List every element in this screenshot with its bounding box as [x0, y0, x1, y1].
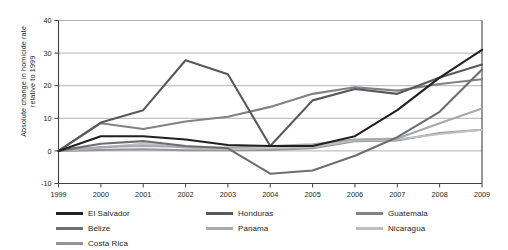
series-line-nicaragua — [59, 130, 483, 151]
legend-swatch-icon — [56, 242, 83, 245]
y-tick-label: -10 — [41, 179, 52, 188]
legend-item-guatemala[interactable]: Guatemala — [356, 209, 496, 218]
x-tick-label: 2007 — [389, 190, 405, 199]
x-tick-label: 1999 — [50, 190, 66, 199]
y-tick-label: 20 — [43, 81, 51, 90]
data-series-group — [59, 50, 483, 174]
legend-label: Nicaragua — [388, 224, 425, 233]
legend-label: Belize — [88, 224, 110, 233]
legend-item-belize[interactable]: Belize — [56, 224, 206, 233]
legend-swatch-icon — [56, 227, 83, 230]
legend-label: Honduras — [238, 209, 273, 218]
x-tick-label: 2008 — [432, 190, 448, 199]
x-tick-label: 2000 — [93, 190, 109, 199]
legend-swatch-icon — [206, 227, 233, 230]
x-tick-label: 2004 — [262, 190, 278, 199]
y-axis-ticks: -10010203040 — [41, 16, 59, 188]
series-line-guatemala — [59, 79, 483, 151]
x-tick-label: 2003 — [220, 190, 236, 199]
x-tick-label: 2009 — [474, 190, 490, 199]
x-tick-label: 2005 — [304, 190, 320, 199]
legend-label: Panama — [238, 224, 268, 233]
legend-label: El Salvador — [88, 209, 130, 218]
legend-item-nicaragua[interactable]: Nicaragua — [356, 224, 496, 233]
x-tick-label: 2006 — [347, 190, 363, 199]
chart-legend: El SalvadorHondurasGuatemalaBelizePanama… — [56, 206, 496, 250]
legend-swatch-icon — [356, 227, 383, 230]
legend-swatch-icon — [356, 212, 383, 215]
legend-label: Guatemala — [388, 209, 428, 218]
y-tick-label: 0 — [47, 147, 51, 156]
y-tick-label: 10 — [43, 114, 51, 123]
y-tick-label: 40 — [43, 16, 51, 25]
y-tick-label: 30 — [43, 49, 51, 58]
legend-item-honduras[interactable]: Honduras — [206, 209, 356, 218]
legend-item-el-salvador[interactable]: El Salvador — [56, 209, 206, 218]
x-tick-label: 2002 — [177, 190, 193, 199]
legend-swatch-icon — [206, 212, 233, 215]
legend-item-panama[interactable]: Panama — [206, 224, 356, 233]
legend-item-costa-rica[interactable]: Costa Rica — [56, 239, 206, 248]
x-axis-ticks: 1999200020012002200320042005200620072008… — [50, 184, 490, 200]
axis-lines — [59, 21, 483, 184]
legend-label: Costa Rica — [88, 239, 128, 248]
x-tick-label: 2001 — [135, 190, 151, 199]
legend-swatch-icon — [56, 212, 83, 215]
